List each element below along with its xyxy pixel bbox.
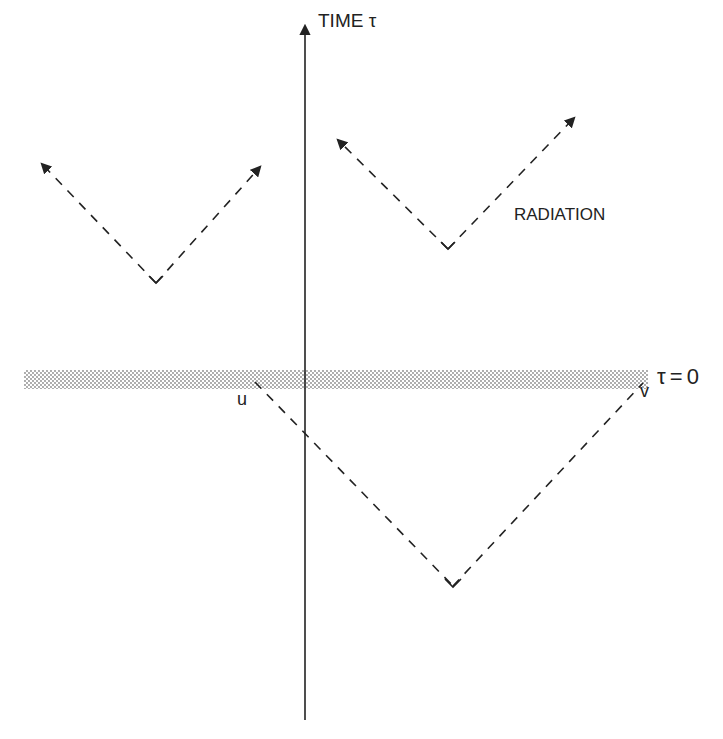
point-u-label: u	[237, 389, 247, 410]
right-upper-light-cone	[338, 118, 574, 249]
time-axis-label: TIME τ	[318, 10, 376, 32]
lower-light-cone	[255, 382, 643, 587]
spacetime-diagram	[0, 0, 723, 739]
left-upper-light-cone	[42, 164, 260, 283]
point-v-label: v	[640, 381, 649, 402]
radiation-label: RADIATION	[514, 205, 605, 225]
tau-zero-surface	[24, 370, 648, 389]
tau-zero-label: τ = 0	[657, 364, 698, 390]
